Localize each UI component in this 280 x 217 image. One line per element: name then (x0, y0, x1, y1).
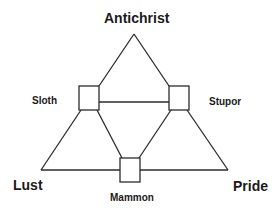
edge-antichrist-sloth (99, 34, 134, 86)
node-box-mammon (120, 158, 140, 182)
label-mammon: Mammon (110, 192, 154, 203)
label-antichrist: Antichrist (104, 10, 169, 26)
edge-stupor-mammon (139, 110, 171, 158)
label-lust: Lust (13, 177, 43, 193)
node-box-stupor (169, 86, 189, 110)
edge-stupor-pride (187, 110, 228, 170)
edge-sloth-lust (41, 110, 81, 170)
edge-sloth-mammon (97, 110, 122, 158)
label-sloth: Sloth (32, 95, 57, 106)
node-box-sloth (79, 86, 99, 110)
edge-antichrist-stupor (134, 34, 169, 86)
label-pride: Pride (233, 178, 268, 194)
label-stupor: Stupor (209, 96, 241, 107)
diagram-canvas: Antichrist Sloth Stupor Lust Pride Mammo… (0, 0, 280, 217)
